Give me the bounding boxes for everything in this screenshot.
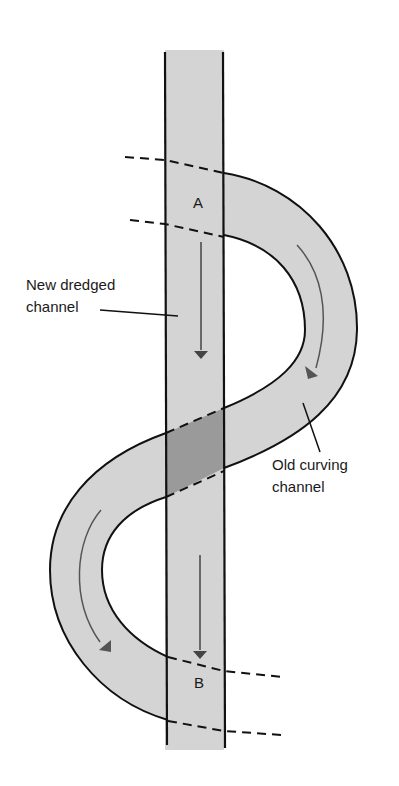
old-channel-label-line2: channel: [272, 478, 325, 495]
old-channel-label-line1: Old curving: [272, 456, 348, 473]
new-channel-label-line1: New dredged: [26, 276, 115, 293]
old-channel-upper-bend: [224, 173, 357, 468]
diagram-canvas: A B New dredged channel Old curving chan…: [0, 0, 399, 786]
new-dredged-channel: [165, 50, 224, 750]
new-channel-label-line2: channel: [26, 298, 79, 315]
point-b-label: B: [194, 674, 204, 691]
point-a-label: A: [193, 194, 203, 211]
old-channel-lower-bend: [50, 433, 168, 720]
